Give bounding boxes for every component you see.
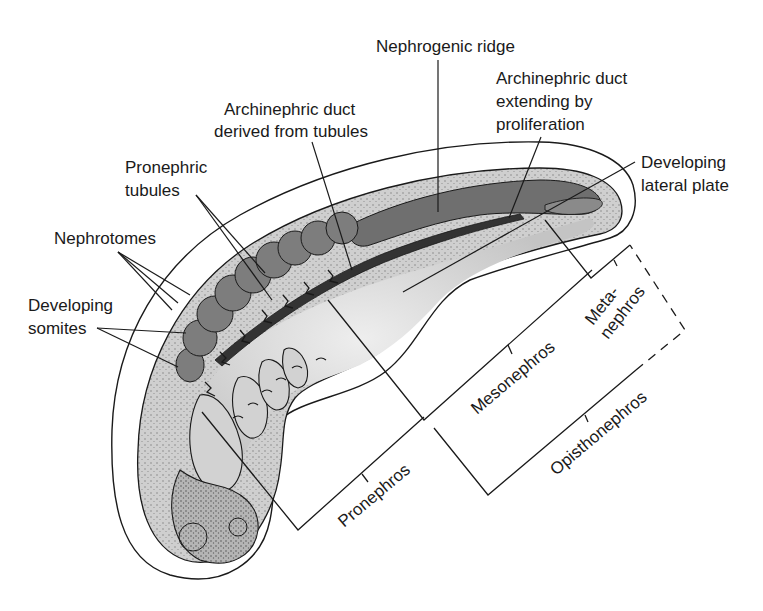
label-mesonephros: Mesonephros — [467, 337, 558, 418]
label-pronephros: Pronephros — [334, 460, 414, 531]
label-archinephric-duct-proliferation-line2: extending by — [496, 92, 593, 111]
embryo-kidney-diagram: Nephrogenic ridge Archinephric duct deri… — [0, 0, 763, 611]
label-archinephric-duct-proliferation-line3: proliferation — [496, 115, 585, 134]
label-developing-somites-line1: Developing — [28, 296, 113, 315]
label-developing-lateral-plate-line2: lateral plate — [641, 176, 729, 195]
diagram-canvas: Nephrogenic ridge Archinephric duct deri… — [0, 0, 763, 611]
label-pronephric-tubules-line1: Pronephric — [125, 158, 208, 177]
label-archinephric-duct-tubules-line2: derived from tubules — [214, 122, 368, 141]
label-developing-somites-line2: somites — [28, 319, 87, 338]
label-nephrogenic-ridge: Nephrogenic ridge — [376, 37, 515, 56]
label-archinephric-duct-tubules-line1: Archinephric duct — [224, 100, 356, 119]
label-nephrotomes: Nephrotomes — [54, 229, 156, 248]
label-archinephric-duct-proliferation-line1: Archinephric duct — [496, 69, 628, 88]
label-developing-lateral-plate-line1: Developing — [641, 153, 726, 172]
label-pronephric-tubules-line2: tubules — [125, 181, 180, 200]
